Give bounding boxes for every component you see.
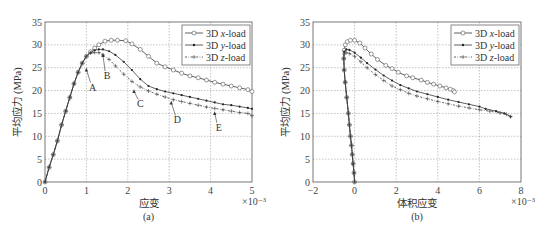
- circle-marker-icon: [229, 84, 233, 88]
- dot-marker-icon: [251, 108, 253, 110]
- y-tick-label: 25: [32, 62, 42, 73]
- y-axis-label: 平均应力 (MPa): [279, 67, 292, 137]
- circle-marker-icon: [147, 54, 151, 58]
- circle-marker-icon: [171, 68, 175, 72]
- x-tick-label: 2: [394, 185, 399, 196]
- legend-label: 3D y-load: [475, 40, 515, 51]
- plus-marker-icon: [180, 100, 184, 104]
- circle-icon: [192, 31, 196, 35]
- annotation-label: D: [174, 114, 181, 125]
- plus-marker-icon: [457, 104, 461, 108]
- circle-marker-icon: [204, 78, 208, 82]
- plus-marker-icon: [398, 88, 402, 92]
- y-tick-label: 35: [300, 17, 310, 28]
- plus-marker-icon: [238, 111, 242, 115]
- arrowhead-icon: [85, 68, 88, 72]
- dot-marker-icon: [102, 48, 104, 50]
- circle-marker-icon: [155, 61, 159, 65]
- circle-marker-icon: [115, 38, 119, 42]
- plus-marker-icon: [138, 85, 142, 89]
- plus-marker-icon: [155, 92, 159, 96]
- circle-marker-icon: [97, 43, 101, 47]
- legend-label: 3D z-load: [206, 52, 245, 63]
- annotation-label: B: [104, 70, 111, 81]
- circle-marker-icon: [196, 76, 200, 80]
- circle-marker-icon: [348, 38, 352, 42]
- x-tick-label: 5: [250, 185, 255, 196]
- dot-marker-icon: [108, 50, 110, 52]
- circle-marker-icon: [221, 82, 225, 86]
- plus-marker-icon: [407, 91, 411, 95]
- circle-marker-icon: [188, 74, 192, 78]
- dot-marker-icon: [156, 88, 158, 90]
- circle-marker-icon: [358, 41, 362, 45]
- dot-marker-icon: [348, 49, 350, 51]
- plus-marker-icon: [221, 108, 225, 112]
- dot-marker-icon: [416, 90, 418, 92]
- y-tick-label: 35: [32, 17, 42, 28]
- circle-marker-icon: [438, 84, 442, 88]
- y-tick-label: 5: [305, 154, 310, 165]
- dot-icon: [462, 44, 464, 46]
- plus-marker-icon: [390, 84, 394, 88]
- dot-marker-icon: [458, 101, 460, 103]
- annotation-c: C: [132, 89, 143, 109]
- panel-label: (a): [143, 211, 154, 223]
- annotation-label: A: [89, 82, 97, 93]
- annotation-arrow-icon: [103, 55, 105, 71]
- chart-panel-b: −20246805101520253035×10⁻³体积应变平均应力 (MPa)…: [279, 17, 535, 224]
- dot-marker-icon: [181, 94, 183, 96]
- dot-marker-icon: [345, 48, 347, 50]
- x-multiplier-label: ×10⁻³: [511, 196, 535, 207]
- circle-marker-icon: [384, 63, 388, 67]
- circle-marker-icon: [180, 71, 184, 75]
- dot-marker-icon: [114, 54, 116, 56]
- x-tick-label: 0: [352, 185, 357, 196]
- dot-marker-icon: [123, 61, 125, 63]
- dot-marker-icon: [391, 79, 393, 81]
- dot-marker-icon: [478, 105, 480, 107]
- y-tick-label: 10: [300, 131, 310, 142]
- dot-marker-icon: [139, 78, 141, 80]
- y-tick-label: 25: [300, 62, 310, 73]
- dot-marker-icon: [408, 87, 410, 89]
- circle-marker-icon: [432, 82, 436, 86]
- plus-marker-icon: [425, 97, 429, 101]
- dot-marker-icon: [238, 105, 240, 107]
- x-tick-label: 3: [167, 185, 172, 196]
- x-tick-label: 1: [84, 185, 89, 196]
- x-axis-label: 体积应变: [397, 197, 438, 209]
- y-tick-label: 15: [32, 108, 42, 119]
- dot-marker-icon: [230, 104, 232, 106]
- x-tick-label: 4: [208, 185, 213, 196]
- plus-marker-icon: [509, 115, 513, 119]
- legend-label: 3D y-load: [206, 40, 246, 51]
- plus-marker-icon: [229, 109, 233, 113]
- series-line: [344, 49, 511, 182]
- y-tick-label: 15: [300, 108, 310, 119]
- series-3d-z-load: [342, 51, 513, 184]
- legend-label: 3D z-load: [475, 52, 514, 63]
- circle-marker-icon: [390, 67, 394, 71]
- dot-marker-icon: [360, 57, 362, 59]
- y-tick-label: 10: [32, 131, 42, 142]
- circle-marker-icon: [163, 65, 167, 69]
- plus-marker-icon: [415, 94, 419, 98]
- annotation-d: D: [170, 101, 181, 126]
- dot-marker-icon: [172, 92, 174, 94]
- x-tick-label: 8: [519, 185, 524, 196]
- legend: 3D x-load3D y-load3D z-load: [182, 25, 250, 65]
- panel-label: (b): [411, 211, 423, 223]
- dot-marker-icon: [189, 96, 191, 98]
- circle-marker-icon: [109, 38, 113, 42]
- legend-label: 3D x-load: [206, 28, 246, 39]
- dot-marker-icon: [214, 101, 216, 103]
- y-axis-label: 平均应力 (MPa): [11, 67, 24, 137]
- dot-marker-icon: [222, 103, 224, 105]
- chart-figure: 01234505101520253035×10⁻³应变平均应力 (MPa)(a)…: [0, 0, 535, 235]
- plus-marker-icon: [477, 108, 481, 112]
- y-tick-label: 5: [37, 154, 42, 165]
- annotation-label: E: [216, 122, 222, 133]
- plus-marker-icon: [446, 102, 450, 106]
- legend-label: 3D x-load: [475, 28, 515, 39]
